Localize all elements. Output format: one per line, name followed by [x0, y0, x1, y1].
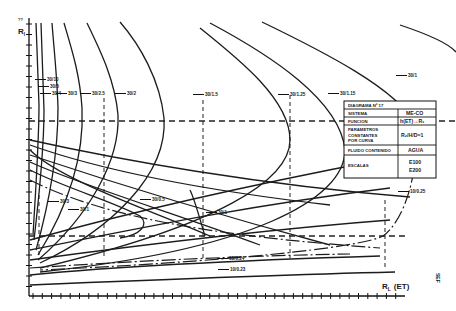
- table-val-fluido: AGUA: [408, 147, 424, 153]
- curve-label: 30/2: [127, 91, 136, 96]
- table-key-funcion: FUNCION: [348, 119, 368, 124]
- curve-label: 30/3: [68, 91, 77, 96]
- lower-curve: [30, 145, 330, 205]
- curve-label: 30/1.5: [205, 92, 218, 97]
- curve-label: 30/3: [60, 199, 69, 204]
- curve-label: 30/10: [47, 77, 59, 82]
- table-val-param: R₂/H/D=1: [401, 132, 423, 138]
- upper-curve: [40, 23, 345, 272]
- table-title: DIAGRAMA Nº 17: [348, 103, 384, 108]
- curve-label: 30/0.5: [152, 197, 165, 202]
- y-axis-top-marker: ??: [18, 17, 23, 22]
- table-key-param-2: CONSTANTES: [348, 133, 377, 138]
- table-val-sistema: ME-CO: [406, 110, 423, 116]
- curve-label: 10/0.23: [230, 267, 246, 272]
- table-val-escala-2: E200: [409, 167, 421, 173]
- curve-label: 30/5: [50, 84, 59, 89]
- info-table: DIAGRAMA Nº 17 SISTEMA ME-CO FUNCION h(E…: [344, 101, 436, 178]
- curve-label: 30/1: [218, 210, 227, 215]
- table-key-sistema: SISTEMA: [348, 111, 367, 116]
- upper-curve: [400, 25, 456, 52]
- x-axis-label: RL(ET): [382, 282, 410, 292]
- lower-curve: [30, 150, 210, 236]
- table-key-param-3: POR CURVA: [348, 138, 373, 143]
- table-val-escala-1: E100: [409, 159, 421, 165]
- curve-label: 10/0.24: [229, 256, 245, 261]
- upper-curve: [38, 23, 118, 260]
- lower-curve: [30, 256, 380, 275]
- y-axis-label: Rl: [18, 27, 26, 37]
- curve-label: 30/1.15: [340, 91, 356, 96]
- curve-label: 30/2.5: [92, 91, 105, 96]
- table-key-fluido: FLUIDO CONTENIDO: [348, 148, 392, 153]
- upper-curve: [38, 23, 82, 255]
- table-key-escalas: ESCALAS: [348, 163, 369, 168]
- side-note: SEF: [435, 273, 441, 283]
- curve-label: 30/1: [408, 73, 417, 78]
- upper-curve: [40, 28, 290, 268]
- table-key-param-1: PARAMETROS: [348, 127, 378, 132]
- nomogram-diagram: Rl ?? RL(ET) SEF 30/1030/530/430/330/2.5…: [0, 0, 456, 311]
- curve-label: 30/1.25: [290, 92, 306, 97]
- table-val-funcion: h(ET)→R₁: [400, 118, 424, 124]
- upper-curve: [36, 23, 58, 250]
- curve-label: 30/1: [80, 207, 89, 212]
- lower-curve: [30, 188, 390, 250]
- curve-label: 10/0.25: [410, 189, 426, 194]
- lower-curve: [30, 272, 395, 285]
